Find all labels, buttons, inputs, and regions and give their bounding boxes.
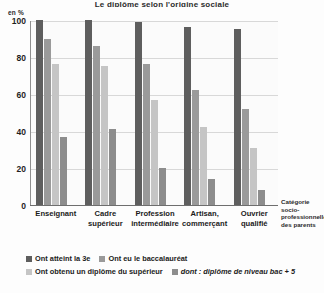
bar <box>208 179 215 205</box>
bar <box>109 129 116 205</box>
bar <box>143 64 150 205</box>
bar <box>93 46 100 205</box>
y-axis-tick-label: 20 <box>17 164 26 174</box>
x-axis-category-labels: EnseignantCadresupérieurProfessioninterm… <box>31 209 279 228</box>
bar <box>52 64 59 205</box>
bar <box>135 22 142 205</box>
x-axis-line <box>30 205 278 206</box>
bar-group <box>229 21 278 205</box>
label-line: Cadre <box>82 209 130 219</box>
legend-label: Ont obtenu un diplôme du supérieur <box>35 267 163 276</box>
bar-group <box>80 21 129 205</box>
legend-swatch-icon <box>26 256 32 262</box>
chart-title: Le diplôme selon l'origine sociale <box>0 0 324 7</box>
label-line: commerçant <box>181 219 229 229</box>
x-axis-category-label: Artisan,commerçant <box>180 209 230 228</box>
plot-area: 020406080100 <box>30 21 278 206</box>
legend-label: Ont eu le baccalauréat <box>108 254 187 263</box>
legend-label: dont : diplôme de niveau bac + 5 <box>181 267 295 276</box>
bar <box>60 137 67 205</box>
legend-label: Ont atteint la 3e <box>35 254 90 263</box>
x-axis-title-line: professionnelle <box>281 213 324 221</box>
chart-legend: Ont atteint la 3eOnt eu le baccalauréatO… <box>26 252 306 278</box>
label-line: supérieur <box>82 219 130 229</box>
legend-swatch-icon <box>172 269 178 275</box>
legend-item[interactable]: Ont eu le baccalauréat <box>99 254 187 263</box>
x-axis-title: Catégoriesocio-professionnelledes parent… <box>281 198 324 228</box>
bar <box>242 109 249 205</box>
label-line: qualifié <box>230 219 278 229</box>
y-axis-tick-label: 40 <box>17 127 26 137</box>
y-axis-unit-label: en % <box>8 9 24 16</box>
bar <box>151 100 158 205</box>
legend-swatch-icon <box>99 256 105 262</box>
y-axis-tick-label: 60 <box>17 90 26 100</box>
legend-swatch-icon <box>26 269 32 275</box>
label-line: Profession <box>131 209 179 219</box>
legend-item[interactable]: dont : diplôme de niveau bac + 5 <box>172 267 295 276</box>
x-axis-title-line: socio- <box>281 206 324 214</box>
bar <box>234 29 241 205</box>
label-line: Ouvrier <box>230 209 278 219</box>
bar <box>159 168 166 205</box>
y-axis-tick-label: 80 <box>17 53 26 63</box>
y-axis-tick-label: 0 <box>21 201 26 211</box>
y-axis-tick-label: 100 <box>12 16 26 26</box>
bar-groups <box>31 21 278 205</box>
bar <box>85 20 92 205</box>
label-line: Artisan, <box>181 209 229 219</box>
x-axis-category-label: Cadresupérieur <box>81 209 131 228</box>
legend-row: Ont atteint la 3eOnt eu le baccalauréat <box>26 252 306 265</box>
bar <box>258 190 265 205</box>
bar <box>192 90 199 205</box>
label-line: Enseignant <box>32 209 80 219</box>
bar-group <box>179 21 228 205</box>
x-axis-title-line: des parents <box>281 221 324 229</box>
bar-group <box>31 21 80 205</box>
bar <box>101 66 108 205</box>
bar-group <box>130 21 179 205</box>
x-axis-category-label: Ouvrierqualifié <box>229 209 279 228</box>
x-axis-category-label: Enseignant <box>31 209 81 228</box>
bar <box>44 39 51 206</box>
legend-row: Ont obtenu un diplôme du supérieurdont :… <box>26 265 306 278</box>
bar <box>250 148 257 205</box>
legend-item[interactable]: Ont obtenu un diplôme du supérieur <box>26 267 163 276</box>
bar <box>184 27 191 205</box>
bar <box>200 127 207 205</box>
bar-chart: Le diplôme selon l'origine sociale en % … <box>0 0 324 293</box>
label-line: intermédiaire <box>131 219 179 229</box>
x-axis-title-line: Catégorie <box>281 198 324 206</box>
legend-item[interactable]: Ont atteint la 3e <box>26 254 90 263</box>
x-axis-category-label: Professionintermédiaire <box>130 209 180 228</box>
bar <box>36 20 43 205</box>
